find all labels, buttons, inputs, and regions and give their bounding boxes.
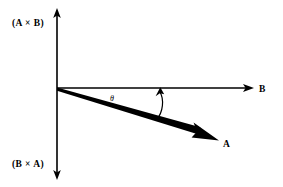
top-axis-label: (A × B) (12, 18, 44, 29)
figure-root: (A × B) (B × A) B A θ (0, 0, 283, 187)
vector-b-label: B (259, 84, 266, 94)
bottom-axis-label: (B × A) (12, 159, 44, 170)
vector-a-shaft (57, 88, 200, 135)
theta-angle-label: θ (110, 94, 114, 103)
vector-diagram: (A × B) (B × A) B A θ (0, 0, 283, 187)
vector-a-label: A (223, 139, 230, 149)
